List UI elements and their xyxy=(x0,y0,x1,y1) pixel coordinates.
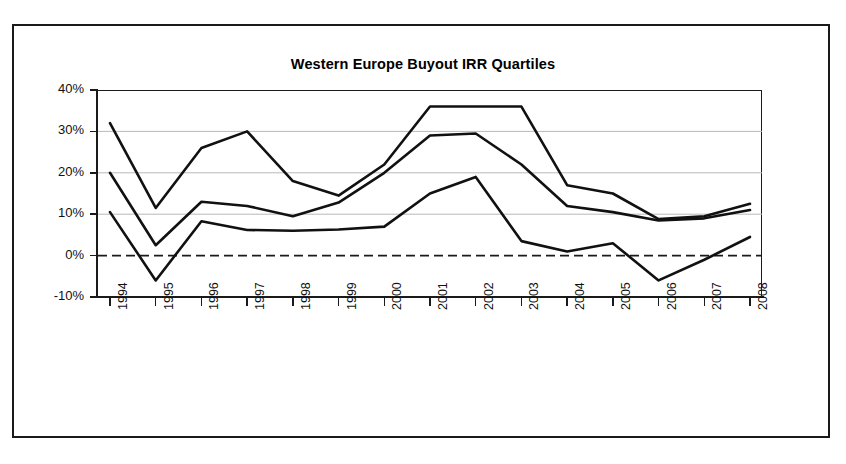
y-axis-label: 10% xyxy=(22,205,84,220)
chart-screenshot: Western Europe Buyout IRR Quartiles 40%3… xyxy=(0,0,846,464)
x-tick-mark xyxy=(201,298,203,306)
plot-area-wrapper xyxy=(98,90,762,297)
x-tick-mark xyxy=(475,298,477,306)
x-tick-mark xyxy=(612,298,614,306)
x-tick-mark xyxy=(109,298,111,306)
x-tick-mark xyxy=(704,298,706,306)
x-tick-mark xyxy=(384,298,386,306)
chart-plot-svg xyxy=(98,90,762,297)
x-tick-mark xyxy=(338,298,340,306)
x-tick-mark xyxy=(566,298,568,306)
y-tick-mark xyxy=(90,172,98,174)
y-axis-label: 40% xyxy=(22,81,84,96)
x-tick-mark xyxy=(429,298,431,306)
x-tick-mark xyxy=(521,298,523,306)
y-axis-label: 30% xyxy=(22,122,84,137)
y-tick-mark xyxy=(90,131,98,133)
x-tick-mark xyxy=(292,298,294,306)
y-tick-mark xyxy=(90,255,98,257)
y-axis-label: 20% xyxy=(22,164,84,179)
y-tick-mark xyxy=(90,296,98,298)
series-line-bottom-quartile xyxy=(110,177,750,281)
chart-title: Western Europe Buyout IRR Quartiles xyxy=(0,56,846,72)
y-axis-label: -10% xyxy=(22,288,84,303)
gridlines xyxy=(98,131,762,214)
y-axis-label: 0% xyxy=(22,247,84,262)
x-tick-mark xyxy=(749,298,751,306)
y-tick-mark xyxy=(90,213,98,215)
series-line-median xyxy=(110,133,750,245)
x-tick-mark xyxy=(155,298,157,306)
x-tick-mark xyxy=(658,298,660,306)
x-tick-mark xyxy=(246,298,248,306)
data-series-lines xyxy=(110,107,750,281)
y-tick-mark xyxy=(90,89,98,91)
